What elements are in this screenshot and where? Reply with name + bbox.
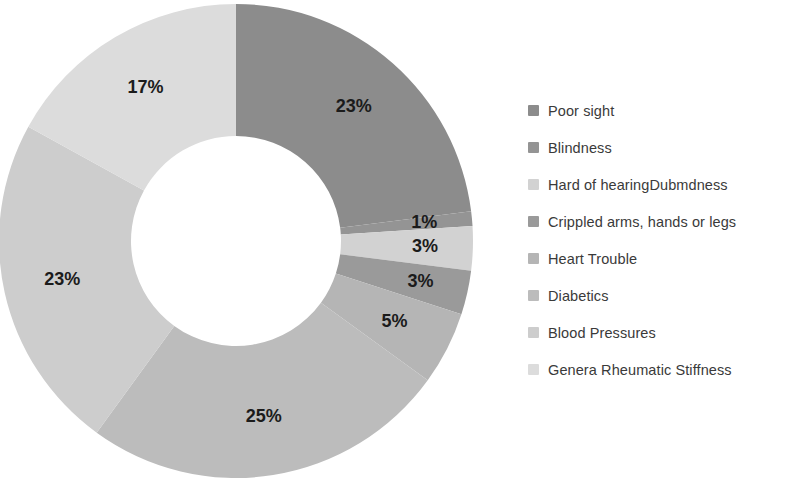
legend-item-label: Blindness [548, 140, 612, 156]
legend-swatch-icon [528, 179, 539, 190]
legend-item-label: Hard of hearingDubmdness [548, 177, 728, 193]
slice-data-label: 3% [407, 271, 433, 291]
legend-swatch-icon [528, 364, 539, 375]
donut-chart: 23%1%3%3%5%25%23%17% [0, 0, 500, 487]
legend-item-label: Blood Pressures [548, 325, 656, 341]
legend-item[interactable]: Blindness [528, 129, 790, 166]
legend-swatch-icon [528, 253, 539, 264]
slice-data-label: 23% [336, 96, 372, 116]
donut-slices [0, 4, 473, 478]
legend-swatch-icon [528, 142, 539, 153]
legend-item-label: Heart Trouble [548, 251, 637, 267]
slice-data-label: 1% [411, 212, 437, 232]
legend-item[interactable]: Diabetics [528, 277, 790, 314]
slice-data-label: 17% [127, 77, 163, 97]
legend-item[interactable]: Blood Pressures [528, 314, 790, 351]
chart-page: 23%1%3%3%5%25%23%17% Poor sightBlindness… [0, 0, 795, 487]
legend-item[interactable]: Hard of hearingDubmdness [528, 166, 790, 203]
legend-swatch-icon [528, 290, 539, 301]
legend-item-label: Diabetics [548, 288, 609, 304]
donut-chart-svg: 23%1%3%3%5%25%23%17% [0, 0, 500, 487]
legend-swatch-icon [528, 216, 539, 227]
legend-item[interactable]: Genera Rheumatic Stiffness [528, 351, 790, 388]
slice-data-label: 3% [412, 236, 438, 256]
legend-item-label: Crippled arms, hands or legs [548, 214, 736, 230]
legend-swatch-icon [528, 327, 539, 338]
chart-legend: Poor sightBlindnessHard of hearingDubmdn… [528, 92, 790, 388]
slice-data-label: 25% [246, 406, 282, 426]
slice-data-label: 5% [382, 311, 408, 331]
legend-item[interactable]: Poor sight [528, 92, 790, 129]
legend-item[interactable]: Crippled arms, hands or legs [528, 203, 790, 240]
slice-data-label: 23% [44, 269, 80, 289]
legend-item[interactable]: Heart Trouble [528, 240, 790, 277]
legend-swatch-icon [528, 105, 539, 116]
legend-item-label: Poor sight [548, 103, 614, 119]
legend-item-label: Genera Rheumatic Stiffness [548, 362, 732, 378]
